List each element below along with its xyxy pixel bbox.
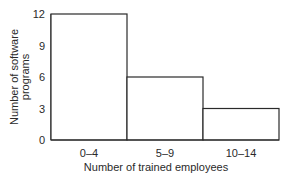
- x-tick-label: 0–4: [80, 147, 98, 159]
- x-tick-label: 5–9: [156, 147, 174, 159]
- x-tick-label: 10–14: [226, 147, 257, 159]
- bar-5–9: [127, 77, 203, 140]
- y-tick-label: 0: [39, 134, 45, 146]
- bar-10–14: [203, 109, 279, 141]
- y-tick-label: 9: [39, 40, 45, 52]
- x-tick-labels: 0–45–910–14: [80, 147, 256, 159]
- y-tick-label: 6: [39, 71, 45, 83]
- y-tick-label: 12: [33, 8, 45, 20]
- y-tick-label: 3: [39, 103, 45, 115]
- histogram-chart: 036912 0–45–910–14 Number of trained emp…: [0, 0, 286, 176]
- bar-0–4: [51, 14, 127, 140]
- bars: [51, 14, 279, 140]
- y-axis-title: Number of software programs: [8, 29, 31, 125]
- x-axis-title: Number of trained employees: [84, 161, 229, 173]
- y-axis-title-line-2: programs: [19, 53, 31, 100]
